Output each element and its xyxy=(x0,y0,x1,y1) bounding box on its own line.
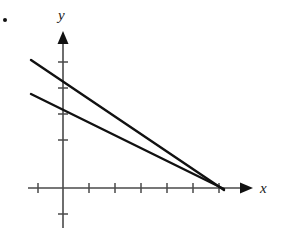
y-axis-arrow-icon xyxy=(58,31,69,44)
y-axis-label: y xyxy=(58,8,65,23)
x-axis-arrow-icon xyxy=(240,183,253,194)
data-line-2 xyxy=(31,94,224,189)
x-axis-label: x xyxy=(260,181,267,196)
data-line-1 xyxy=(31,60,224,190)
coordinate-plot xyxy=(0,0,281,234)
graph-figure: y x xyxy=(0,0,281,234)
